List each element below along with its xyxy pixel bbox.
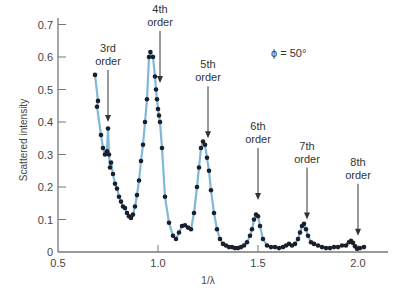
y-tick-label: 0.2 [38,181,53,193]
arrow-head-icon [255,193,261,200]
y-tick-label: 0.1 [38,214,53,226]
axes: 00.10.20.30.40.50.60.70.51.01.52.0 [38,18,388,269]
data-point [123,206,128,211]
data-point [115,186,120,191]
data-point [324,246,329,251]
data-point [106,126,111,131]
x-tick-label: 1.5 [250,257,265,269]
data-point [273,245,278,250]
data-points [93,50,367,251]
data-point [203,143,208,148]
data-point [111,172,116,177]
data-point [215,227,220,232]
data-point [197,165,202,170]
arrow-head-icon [355,229,361,236]
data-point [336,245,341,250]
y-tick-label: 0.6 [38,51,53,63]
data-point [192,211,197,216]
data-point [199,146,204,151]
data-point [154,87,159,92]
data-point [205,156,210,161]
y-tick-label: 0.7 [38,19,53,31]
data-point [158,120,163,125]
data-point [137,178,142,183]
phi-parameter-label: ϕ = 50° [271,47,306,59]
x-tick-label: 0.5 [50,257,65,269]
data-point [277,246,282,251]
data-point [153,74,158,79]
data-point [362,245,367,250]
order-label: 3rd [100,42,116,54]
data-point [304,227,309,232]
data-point [312,242,317,247]
data-point [117,195,122,200]
x-axis-title: 1/λ [201,275,214,286]
data-point [119,199,124,204]
data-point [141,143,146,148]
data-point [163,195,168,200]
y-tick-label: 0.3 [38,149,53,161]
data-point [151,55,156,60]
data-point [258,224,263,229]
data-point [167,221,172,226]
data-point [195,185,200,190]
data-point [358,246,363,251]
order-label: 7th [299,140,314,152]
data-point [143,120,148,125]
data-point [157,113,162,118]
data-point [174,237,179,242]
scattered-intensity-chart: 00.10.20.30.40.50.60.70.51.01.52.0 3rdor… [0,0,418,294]
data-point [113,182,118,187]
arrow-head-icon [205,131,211,138]
data-point [109,160,114,165]
data-point [135,193,140,198]
data-point [148,50,153,55]
arrow-head-icon [304,213,310,220]
order-label: order [345,169,371,181]
data-point [156,107,161,112]
data-point [256,214,261,219]
order-label: order [147,16,173,28]
data-point [218,237,223,242]
order-label: 5th [200,58,215,70]
data-point [155,97,160,102]
arrow-head-icon [105,115,111,122]
data-point [207,169,212,174]
data-point [316,243,321,248]
y-axis-title: Scattered intensity [18,99,29,181]
data-point [261,237,266,242]
data-point [133,204,138,209]
data-point [108,165,113,170]
data-point [245,240,250,245]
data-point [320,245,325,250]
data-point [250,227,255,232]
data-point [177,230,182,235]
data-point [306,234,311,239]
data-point [99,133,104,138]
data-point [147,55,152,60]
data-point [252,217,257,222]
data-point [269,245,274,250]
data-point [160,146,165,151]
data-point [212,211,217,216]
data-point [332,245,337,250]
data-point [265,243,270,248]
data-point [340,243,345,248]
data-point [298,230,303,235]
data-point [189,227,194,232]
order-label: 8th [350,156,365,168]
data-point [209,188,214,193]
data-point [296,237,301,242]
order-label: order [245,133,271,145]
data-point [302,221,307,226]
order-label: order [294,153,320,165]
data-point [96,99,101,104]
arrow-head-icon [157,76,163,83]
data-point [145,97,150,102]
data-point [131,212,136,217]
data-point [107,152,112,157]
y-tick-label: 0.5 [38,84,53,96]
fit-curve-path [95,52,364,249]
data-point [93,73,98,78]
order-label: order [195,71,221,83]
